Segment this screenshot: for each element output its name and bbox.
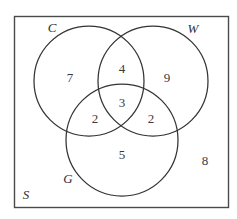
venn-diagram-figure: C W G S 7 9 5 4 2 2 3 8	[0, 0, 237, 219]
region-count-c-w-g: 3	[119, 95, 126, 110]
set-label-w: W	[188, 21, 200, 36]
set-circle-c	[34, 26, 144, 136]
set-label-c: C	[48, 20, 57, 35]
region-count-outside: 8	[202, 153, 209, 168]
region-count-w-g: 2	[148, 111, 155, 126]
region-count-c-g: 2	[92, 111, 99, 126]
set-label-g: G	[63, 171, 73, 186]
region-count-g-only: 5	[119, 147, 126, 162]
region-count-w-only: 9	[164, 70, 171, 85]
region-count-c-w: 4	[119, 61, 126, 76]
universal-set-label-s: S	[23, 187, 30, 202]
region-count-c-only: 7	[67, 70, 74, 85]
